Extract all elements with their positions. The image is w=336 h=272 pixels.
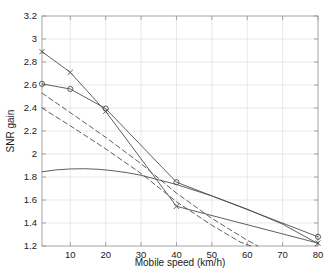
y-tick-label: 3.2 <box>24 10 37 21</box>
y-tick-label: 1.2 <box>24 240 37 251</box>
x-tick-label: 10 <box>65 249 76 260</box>
line-chart: 1020304050607080 1.21.41.61.822.22.42.62… <box>0 0 336 272</box>
y-axis-title: SNR gain <box>5 110 16 153</box>
y-tick-label: 2.2 <box>24 125 37 136</box>
y-tick-label: 2 <box>32 148 37 159</box>
y-tick-label: 2.4 <box>24 102 37 113</box>
x-tick-label: 80 <box>313 249 324 260</box>
y-tick-label: 3 <box>32 33 37 44</box>
x-axis-title: Mobile speed (km/h) <box>135 257 226 268</box>
x-tick-label: 20 <box>100 249 111 260</box>
chart-figure: 1020304050607080 1.21.41.61.822.22.42.62… <box>0 0 336 272</box>
x-tick-label: 60 <box>242 249 253 260</box>
y-tick-label: 1.8 <box>24 171 37 182</box>
y-tick-label: 2.8 <box>24 56 37 67</box>
chart-background <box>0 0 336 272</box>
x-tick-label: 70 <box>277 249 288 260</box>
y-tick-label: 1.4 <box>24 217 37 228</box>
y-tick-label: 2.6 <box>24 79 37 90</box>
y-tick-label: 1.6 <box>24 194 37 205</box>
